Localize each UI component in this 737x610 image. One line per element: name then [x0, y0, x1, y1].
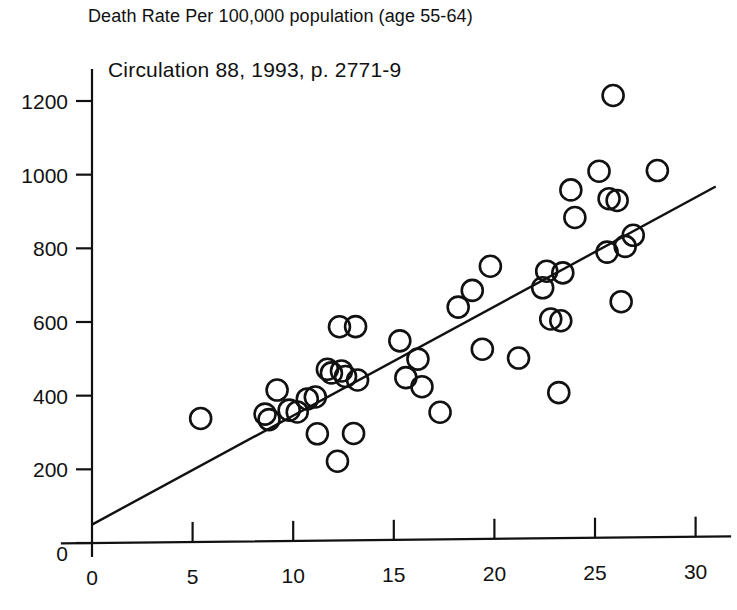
data-point [411, 376, 432, 397]
data-point [345, 316, 366, 337]
data-point [343, 423, 364, 444]
data-point [430, 402, 451, 423]
data-point [190, 408, 211, 429]
data-point [480, 256, 501, 277]
y-tick-label-200: 200 [33, 458, 68, 481]
x-tick-label-25: 25 [583, 561, 606, 584]
data-point [307, 423, 328, 444]
y-axis-ticks [76, 101, 92, 543]
y-tick-label-800: 800 [33, 237, 68, 260]
data-point [462, 280, 483, 301]
y-tick-label-600: 600 [33, 311, 68, 334]
data-point [395, 367, 416, 388]
data-point [603, 85, 624, 106]
x-axis-tick-labels: 051015202530 [86, 560, 707, 589]
data-point [389, 330, 410, 351]
x-tick-label-30: 30 [684, 560, 707, 583]
data-point [508, 348, 529, 369]
data-point [407, 349, 428, 370]
y-tick-label-1000: 1000 [21, 164, 68, 187]
y-tick-label-1200: 1200 [21, 90, 68, 113]
data-point [267, 380, 288, 401]
scatter-plot-figure: Death Rate Per 100,000 population (age 5… [0, 0, 737, 610]
x-tick-label-5: 5 [187, 565, 199, 588]
data-point [548, 382, 569, 403]
x-tick-label-20: 20 [483, 562, 506, 585]
data-point [589, 161, 610, 182]
x-tick-label-15: 15 [382, 563, 405, 586]
x-tick-label-10: 10 [282, 564, 305, 587]
plot-canvas: 020040060080010001200 051015202530 [0, 0, 737, 610]
data-point [472, 339, 493, 360]
data-point [335, 366, 356, 387]
y-tick-label-400: 400 [33, 385, 68, 408]
data-point [611, 291, 632, 312]
x-axis-group: 051015202530 [62, 517, 730, 589]
data-point [560, 179, 581, 200]
data-point [647, 160, 668, 181]
data-point [259, 409, 280, 430]
data-point [564, 207, 585, 228]
y-axis-tick-labels: 020040060080010001200 [21, 90, 68, 565]
y-axis-group: 020040060080010001200 [21, 70, 92, 565]
data-point [327, 451, 348, 472]
data-points-group [190, 85, 668, 472]
x-axis-line [62, 536, 730, 543]
x-tick-label-0: 0 [86, 566, 98, 589]
y-tick-label-0: 0 [56, 542, 68, 565]
